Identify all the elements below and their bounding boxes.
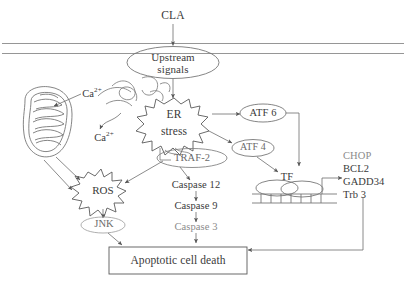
label-cla: CLA	[153, 9, 193, 21]
label-gene-chop: CHOP	[343, 150, 405, 161]
label-tf: TF	[277, 171, 297, 182]
label-calcium-mitochondrial: Ca2+	[74, 87, 110, 99]
calcium-text: Ca	[82, 88, 94, 99]
label-atf6: ATF 6	[243, 107, 283, 118]
calcium-superscript: 2+	[94, 86, 102, 94]
dna-promoter	[252, 194, 337, 203]
label-gene-trb3: Trb 3	[343, 189, 405, 200]
arrow-atf6-to-tf	[286, 113, 299, 166]
plasma-membrane	[2, 44, 404, 54]
arrow-genes-to-apoptosis	[248, 197, 363, 250]
arrow-er-to-atf4	[209, 131, 232, 143]
label-gene-bcl2: BCL2	[343, 163, 405, 174]
label-er-stress-line1: ER	[152, 108, 196, 120]
calcium-superscript-2: 2+	[106, 130, 114, 138]
label-apoptotic-cell-death: Apoptotic cell death	[109, 254, 247, 266]
label-calcium-cytosolic: Ca2+	[86, 131, 122, 143]
arrow-er-to-calcium	[100, 113, 121, 129]
tf-ellipse-right	[281, 181, 323, 197]
label-gene-gadd34: GADD34	[343, 176, 405, 187]
calcium-text-2: Ca	[94, 132, 106, 143]
arrow-jnk-to-apoptosis	[108, 233, 122, 245]
label-jnk: JNK	[88, 218, 120, 229]
label-traf2: TRAF-2	[167, 152, 217, 163]
arrow-transcription-to-genes	[322, 178, 342, 194]
arrow-mitochondrion-to-ros-2	[44, 160, 72, 190]
label-ros: ROS	[82, 185, 124, 197]
label-caspase-12: Caspase 12	[158, 179, 234, 190]
label-caspase-9: Caspase 9	[158, 200, 234, 211]
label-caspase-3: Caspase 3	[158, 221, 234, 232]
label-er-stress-line2: stress	[148, 125, 200, 137]
arrow-atf4-to-tf	[257, 157, 278, 172]
label-atf4: ATF 4	[234, 142, 272, 153]
pathway-diagram: CLA Upstream signals ER stress TRAF-2 AT…	[0, 0, 406, 286]
label-upstream-signals-line2: signals	[143, 64, 203, 76]
pathway-vector-layer	[0, 0, 406, 286]
mitochondrion	[23, 87, 72, 157]
